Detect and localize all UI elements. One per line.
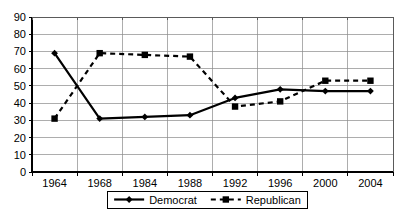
x-axis-tick-labels: 19641968198419881992199620002004 — [42, 177, 382, 189]
y-tick-label: 30 — [14, 114, 26, 126]
data-point-marker — [187, 53, 193, 59]
x-tick-label: 1996 — [268, 177, 292, 189]
y-axis-tick-labels: 0102030405060708090 — [14, 11, 26, 178]
y-tick-label: 70 — [14, 45, 26, 57]
data-point-marker — [277, 98, 283, 104]
y-tick-label: 80 — [14, 28, 26, 40]
data-point-marker — [96, 50, 102, 56]
x-tick-label: 2000 — [313, 177, 337, 189]
x-tick-label: 1968 — [87, 177, 111, 189]
data-point-marker — [232, 103, 238, 109]
chart-container: 0102030405060708090 19641968198419881992… — [0, 0, 415, 216]
data-point-marker — [322, 78, 328, 84]
y-tick-label: 60 — [14, 63, 26, 75]
data-point-marker — [142, 52, 148, 58]
legend-label: Democrat — [149, 194, 197, 206]
x-tick-label: 2004 — [358, 177, 382, 189]
y-tick-label: 50 — [14, 80, 26, 92]
x-tick-label: 1992 — [223, 177, 247, 189]
line-chart: 0102030405060708090 19641968198419881992… — [0, 0, 415, 216]
legend-marker — [223, 196, 229, 202]
x-tick-label: 1984 — [133, 177, 157, 189]
x-tick-label: 1988 — [178, 177, 202, 189]
y-tick-label: 10 — [14, 149, 26, 161]
y-tick-label: 0 — [20, 166, 26, 178]
data-point-marker — [51, 115, 57, 121]
legend-label: Republican — [246, 194, 301, 206]
x-tick-label: 1964 — [42, 177, 66, 189]
chart-legend: DemocratRepublican — [107, 191, 308, 208]
y-tick-label: 90 — [14, 11, 26, 23]
y-tick-label: 40 — [14, 97, 26, 109]
data-point-marker — [367, 78, 373, 84]
y-tick-label: 20 — [14, 132, 26, 144]
